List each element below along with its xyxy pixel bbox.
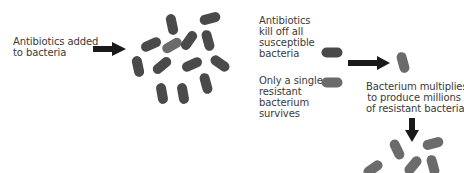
bacterium-icon-resistant: [388, 138, 406, 161]
bacterium-icon-resistant: [402, 154, 423, 173]
bacterium-icon-resistant: [362, 158, 385, 173]
resistant-population: [0, 0, 464, 173]
bacterium-icon-resistant: [425, 154, 440, 173]
bacterium-icon-resistant: [422, 136, 445, 151]
